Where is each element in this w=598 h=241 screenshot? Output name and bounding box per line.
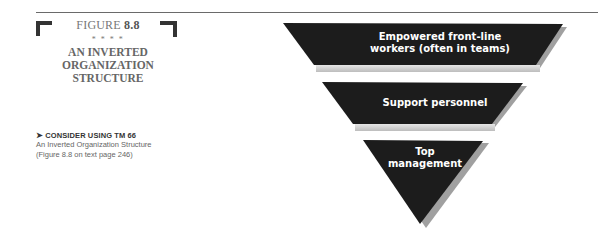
level-3-label: Top management <box>380 146 470 170</box>
level-1-label: Empowered front-line workers (often in t… <box>330 31 550 55</box>
level-2-label: Support personnel <box>355 97 515 109</box>
